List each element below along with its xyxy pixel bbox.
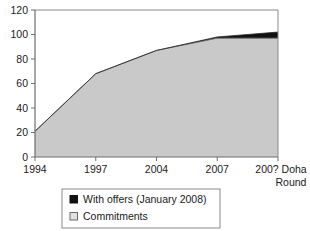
y-axis-tick-label: 0 (22, 151, 28, 163)
x-axis: 1994199720042007200? DohaRound (23, 157, 307, 188)
y-axis-tick-label: 60 (16, 77, 28, 89)
area-chart-svg: 020406080100120 1994199720042007200? Doh… (0, 0, 310, 231)
y-axis-tick-label: 20 (16, 126, 28, 138)
x-axis-tick-label: 200? Doha (255, 163, 307, 175)
y-axis-tick-label: 100 (10, 28, 28, 40)
y-axis-tick-label: 80 (16, 53, 28, 65)
legend-swatch-commitments (70, 213, 78, 221)
chart-legend: With offers (January 2008) Commitments (62, 189, 220, 228)
legend-label-commitments: Commitments (83, 210, 148, 222)
x-axis-tick-label: 1997 (84, 163, 108, 175)
x-axis-tick-label: 2004 (145, 163, 169, 175)
y-axis-tick-label: 120 (10, 4, 28, 16)
legend-swatch-with-offers (70, 196, 78, 204)
chart-container: 020406080100120 1994199720042007200? Doh… (0, 0, 310, 231)
y-axis-tick-label: 40 (16, 102, 28, 114)
x-axis-tick-label: 1994 (23, 163, 47, 175)
x-axis-tick-label-line2: Round (276, 176, 307, 188)
legend-label-with-offers: With offers (January 2008) (83, 193, 207, 205)
x-axis-tick-label: 2007 (206, 163, 230, 175)
y-axis: 020406080100120 (10, 4, 35, 163)
